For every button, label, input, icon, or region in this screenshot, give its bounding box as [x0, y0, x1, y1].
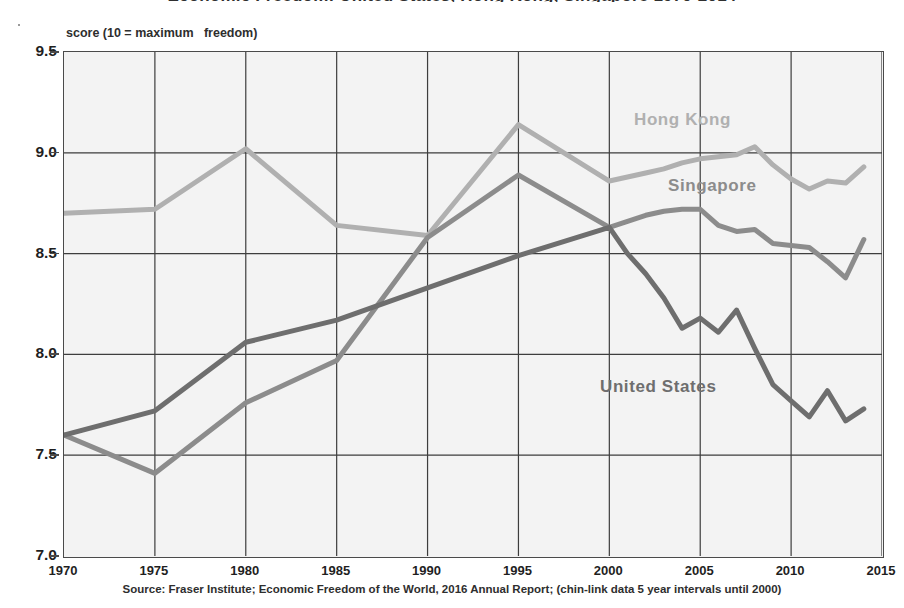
y-axis-caption: score (10 = maximum freedom): [66, 26, 257, 40]
y-tick-mark: [50, 152, 59, 154]
series-label-singapore: Singapore: [668, 176, 757, 196]
x-tick-label: 1995: [482, 563, 552, 578]
y-tick-mark: [50, 253, 59, 255]
x-tick-label: 2005: [664, 563, 734, 578]
chart-page: Economic Freedom: United States, Hong Ko…: [0, 0, 904, 608]
x-tick-label: 1990: [392, 563, 462, 578]
y-tick-mark: [50, 555, 59, 557]
x-axis-ticks: 1970197519801985199019952000200520102015: [0, 563, 904, 583]
x-tick-label: 2000: [573, 563, 643, 578]
x-tick-label: 2015: [846, 563, 904, 578]
series-label-united-states: United States: [600, 377, 716, 397]
series-line-united-states: [64, 227, 864, 435]
x-tick-label: 1985: [301, 563, 371, 578]
y-tick-mark: [50, 51, 59, 53]
y-tick-mark: [50, 454, 59, 456]
plot-area: [63, 51, 884, 558]
source-note: Source: Fraser Institute; Economic Freed…: [0, 583, 904, 595]
x-tick-label: 2010: [755, 563, 825, 578]
series-label-hong-kong: Hong Kong: [634, 110, 731, 130]
y-axis-ticks: 9.59.08.58.07.57.0: [0, 0, 57, 608]
chart-title: Economic Freedom: United States, Hong Ko…: [0, 0, 904, 2]
x-tick-label: 1975: [119, 563, 189, 578]
x-tick-label: 1980: [210, 563, 280, 578]
plot-canvas: [64, 52, 882, 556]
y-tick-mark: [50, 353, 59, 355]
x-tick-label: 1970: [28, 563, 98, 578]
